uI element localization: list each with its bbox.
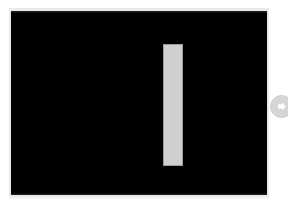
vertical-bar-label — [164, 45, 165, 46]
canvas-bottom-edge — [11, 193, 267, 195]
vertical-bar — [163, 44, 183, 166]
image-canvas[interactable] — [11, 11, 267, 195]
image-viewer — [0, 0, 288, 211]
canvas-top-edge — [11, 11, 267, 13]
arrow-right-circle-icon — [275, 100, 288, 113]
next-button[interactable] — [270, 95, 288, 118]
